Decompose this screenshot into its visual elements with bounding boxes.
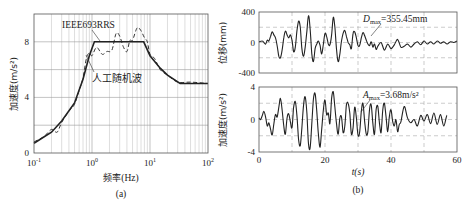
annotation-ieee693-rrs: IEEE693RRS [62,20,115,30]
chart-xtick: 0 [257,155,262,165]
annotation-artificial-wave: 人工随机波 [92,72,142,84]
chart-b-displacement: 4000-400 Dmax=355.45mm 位移(mm) [217,7,457,78]
series-artificial-wave [34,27,208,141]
chart-a-ytick: 4 [25,92,30,102]
chart-a-ytick: 0 [25,148,30,158]
chart-ytick: -4 [248,147,256,157]
chart-ytick: 0 [251,115,256,125]
figure-canvas: 10-1100101102048 IEEE693RRS 人工随机波 加速度(m/… [0,0,470,204]
chart-a-xtick: 100 [86,157,98,168]
chart-a-xlabel-unit: (Hz) [121,173,138,184]
chart-b-bottom-ticks: 40-40204060 [248,82,463,165]
chart-a-ticks: 10-1100101102048 [25,37,215,168]
figure: 10-1100101102048 IEEE693RRS 人工随机波 加速度(m/… [0,0,470,204]
chart-b-xlabel: t(s) [352,167,365,178]
chart-b-top-ticks: 4000-400 [239,7,256,78]
panel-label-b: (b) [352,185,363,196]
chart-xtick: 40 [387,155,397,165]
chart-ytick: 400 [242,7,256,17]
chart-b-bottom-grid [259,87,457,152]
chart-ytick: -400 [239,68,256,78]
series-ieee693-rrs [34,42,208,144]
annotation-leader-rrs [92,30,100,41]
chart-b-top-ylabel: 位移(mm) [217,22,228,65]
chart-ytick: 4 [251,82,256,92]
chart-a-xlabel-cn: 频率 [103,172,121,183]
chart-b-bottom-ylabel: 加速度(m/s²) [217,93,228,147]
chart-a-ylabel: 加速度(m/s²) [8,57,19,111]
chart-xtick: 60 [453,155,463,165]
chart-a-xtick: 101 [144,157,156,168]
panel-label-a: (a) [116,189,127,200]
chart-a-xtick: 102 [202,157,214,168]
annotation-dmax: Dmax=355.45mm [362,14,428,25]
annotation-amax: Amax=3.68m/s² [362,90,419,101]
chart-a-xtick: 10-1 [27,157,41,168]
chart-ytick: 0 [251,38,256,48]
chart-a-xlabel: 频率(Hz) [103,172,138,184]
chart-xtick: 20 [321,155,331,165]
series-acceleration [259,91,447,149]
chart-b-acceleration: 40-40204060 Amax=3.68m/s² 加速度(m/s²) t(s)… [217,82,462,196]
chart-a-response-spectrum: 10-1100101102048 IEEE693RRS 人工随机波 加速度(m/… [8,14,214,200]
annotation-leader-dmax [371,24,381,36]
chart-a-ytick: 8 [25,37,30,47]
